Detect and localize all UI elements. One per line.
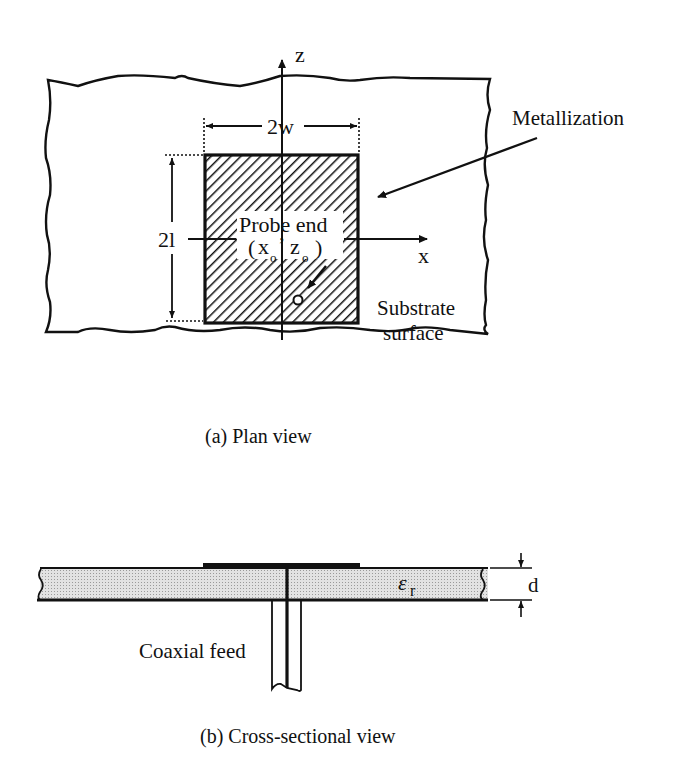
- svg-text:’: ’: [278, 232, 285, 257]
- microstrip-patch-antenna-diagram: z x 2w 2l Probe end ( x o ’ z o ): [0, 0, 679, 771]
- svg-text:z: z: [290, 234, 300, 259]
- substrate-surface-label-line2: surface: [383, 321, 444, 345]
- cross-section-caption: (b) Cross-sectional view: [200, 725, 396, 748]
- svg-text:): ): [315, 235, 322, 260]
- thickness-label: d: [528, 573, 539, 597]
- svg-text:ε: ε: [398, 570, 407, 595]
- z-axis-label: z: [295, 42, 305, 67]
- svg-text:x: x: [258, 234, 269, 259]
- plan-view: z x 2w 2l Probe end ( x o ’ z o ): [45, 42, 624, 448]
- metallization-label: Metallization: [512, 106, 624, 130]
- probe-end-marker: [294, 296, 303, 305]
- svg-text:r: r: [410, 582, 416, 599]
- cross-section-view: ε r d Coaxial feed (b) Cross-sectional v…: [37, 553, 539, 748]
- width-label: 2w: [267, 114, 294, 139]
- plan-view-caption: (a) Plan view: [205, 425, 312, 448]
- svg-text:(: (: [248, 235, 255, 260]
- svg-text:o: o: [270, 250, 277, 265]
- length-label: 2l: [158, 227, 175, 252]
- substrate-surface-label-line1: Substrate: [377, 296, 455, 320]
- metallization-pointer-arrow: [378, 138, 537, 197]
- coaxial-feed-label: Coaxial feed: [139, 639, 246, 663]
- x-axis-label: x: [418, 243, 429, 268]
- dielectric-substrate: [40, 568, 488, 600]
- patch-metallization: [203, 563, 360, 568]
- svg-text:o: o: [302, 250, 309, 265]
